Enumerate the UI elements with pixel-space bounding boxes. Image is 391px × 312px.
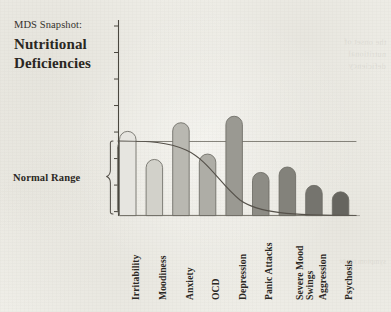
- normal-range-brace: [107, 141, 113, 214]
- bar: [146, 159, 163, 215]
- category-label: Severe Mood Swings: [295, 246, 315, 300]
- category-label: OCD: [211, 278, 222, 300]
- category-label: Depression: [238, 254, 249, 300]
- category-label: Irritability: [131, 255, 142, 300]
- category-label: Psychosis: [344, 260, 355, 300]
- category-label: Anxiety: [185, 267, 196, 300]
- bar: [306, 185, 323, 215]
- bar: [226, 116, 243, 215]
- bar: [279, 167, 296, 216]
- category-label: Moodiness: [158, 255, 169, 300]
- bar: [173, 123, 190, 216]
- bar: [120, 131, 137, 215]
- chart-page: the onset of nutritional deficiency symp…: [0, 0, 391, 312]
- bar: [332, 192, 349, 216]
- bar-group: [120, 116, 349, 215]
- bar: [199, 154, 216, 216]
- chart-plot-area: [0, 0, 391, 312]
- category-label: Aggression: [318, 254, 329, 300]
- category-label: Panic Attacks: [264, 242, 275, 300]
